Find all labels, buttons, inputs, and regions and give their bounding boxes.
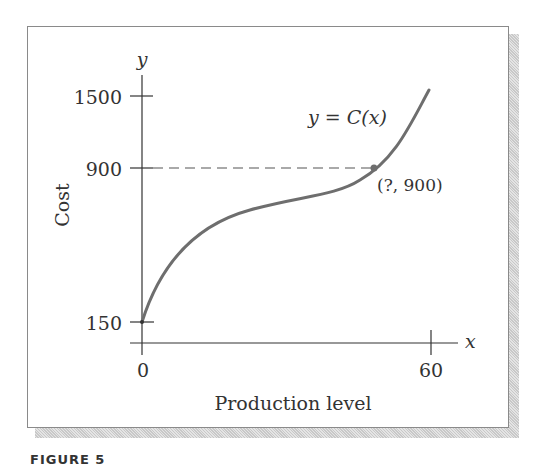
x-axis-title: Production level	[214, 392, 371, 414]
point-marker	[371, 165, 378, 172]
x-axis-symbol: x	[465, 330, 476, 352]
y-tick-label-900: 900	[86, 158, 122, 180]
y-tick-label-1500: 1500	[74, 86, 122, 108]
figure-caption: FIGURE 5	[30, 452, 105, 467]
point-label: (?, 900)	[377, 175, 443, 195]
x-tick-label-60: 60	[419, 359, 443, 381]
y-axis-symbol: y	[136, 48, 148, 70]
intercept-marker	[140, 320, 144, 324]
y-axis-title: Cost	[51, 183, 73, 227]
y-tick-label-150: 150	[86, 312, 122, 334]
x-tick-label-0: 0	[137, 359, 149, 381]
curve-label: y = C(x)	[307, 106, 387, 128]
